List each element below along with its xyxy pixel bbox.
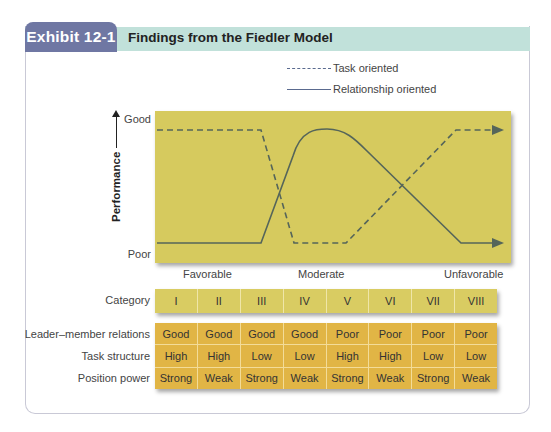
table-row: Strong Weak Strong Weak Strong Weak Stro… [155,368,497,389]
row-label-position-power: Position power [0,372,150,384]
table-cell: Good [241,323,284,344]
legend-label: Relationship oriented [333,83,436,95]
table-row: High High Low Low High High Low Low [155,345,497,367]
table-cell: Weak [369,368,412,389]
y-axis-label: Performance [108,112,124,222]
category-cell: I [155,289,198,313]
x-label-favorable: Favorable [183,268,232,280]
category-row: I II III IV V VI VII VIII [155,289,497,313]
table-cell: Strong [155,368,198,389]
category-cell: VI [369,289,412,313]
y-tick-poor: Poor [111,248,151,260]
table-row: Good Good Good Good Poor Poor Poor Poor [155,323,497,345]
table-cell: Strong [241,368,284,389]
category-cell: VIII [455,289,497,313]
chart-panel [155,111,511,263]
table-cell: Poor [327,323,370,344]
arrow-right-icon [492,125,504,135]
solid-line-sample [287,89,331,90]
category-cell: VII [412,289,455,313]
table-cell: Weak [455,368,497,389]
table-cell: Good [198,323,241,344]
table-cell: Weak [198,368,241,389]
table-cell: High [155,345,198,366]
relationship-oriented-line [157,129,495,243]
legend-item-task: Task oriented [287,62,398,74]
table-cell: Low [412,345,455,366]
row-label-task-structure: Task structure [0,350,150,362]
table-cell: Low [284,345,327,366]
arrow-up-icon [116,112,117,148]
exhibit-label: Exhibit 12-1 [25,22,117,52]
arrow-right-icon [492,238,504,248]
situation-table: Good Good Good Good Poor Poor Poor Poor … [155,323,497,389]
category-label: Category [0,294,150,306]
table-cell: High [198,345,241,366]
table-cell: Poor [369,323,412,344]
chart-plot [155,111,511,263]
x-label-unfavorable: Unfavorable [444,268,503,280]
legend-item-relationship: Relationship oriented [287,83,436,95]
table-cell: Strong [412,368,455,389]
table-cell: Poor [455,323,497,344]
category-cell: III [241,289,284,313]
row-label-leader-member: Leader–member relations [0,328,150,340]
exhibit-title: Findings from the Fiedler Model [128,30,333,45]
table-cell: Good [155,323,198,344]
table-cell: High [369,345,412,366]
legend-label: Task oriented [333,62,398,74]
category-cell: II [198,289,241,313]
table-cell: Low [241,345,284,366]
table-cell: Low [455,345,497,366]
table-cell: Good [284,323,327,344]
x-label-moderate: Moderate [298,268,344,280]
category-cell: V [327,289,370,313]
table-cell: High [327,345,370,366]
table-cell: Poor [412,323,455,344]
dashed-line-sample [287,68,331,69]
y-axis-title: Performance [110,152,122,222]
table-cell: Strong [327,368,370,389]
table-cell: Weak [284,368,327,389]
category-cell: IV [284,289,327,313]
